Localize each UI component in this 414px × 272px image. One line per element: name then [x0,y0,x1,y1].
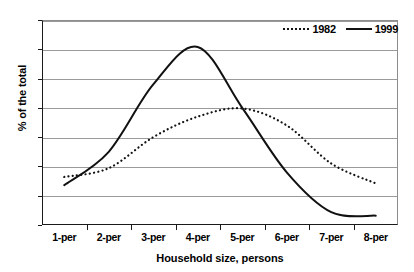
x-tick-label-5-per: 5-per [220,231,264,243]
series-line-1999 [64,47,376,217]
x-tick-label-7-per: 7-per [309,231,353,243]
x-tick-mark-4 [220,225,221,230]
x-tick-label-1-per: 1-per [42,231,86,243]
legend-item-1999[interactable]: 1999 [346,23,398,35]
x-axis-title: Household size, persons [42,252,398,264]
chart-legend: 19821999 [258,19,398,39]
series-line-1982 [64,108,376,183]
x-tick-mark-3 [176,225,177,230]
y-tick-mark-0 [38,225,42,226]
line-chart: % of the total 05101520253035 1-per2-per… [0,0,414,272]
x-tick-label-6-per: 6-per [265,231,309,243]
y-axis-title: % of the total [16,38,28,158]
x-tick-mark-1 [87,225,88,230]
x-tick-label-2-per: 2-per [87,231,131,243]
legend-swatch-dotted-icon [283,28,309,30]
x-tick-mark-6 [309,225,310,230]
series-lines [42,20,398,225]
x-tick-label-8-per: 8-per [354,231,398,243]
x-tick-label-3-per: 3-per [131,231,175,243]
x-tick-mark-5 [265,225,266,230]
legend-label-1999: 1999 [375,23,398,35]
x-tick-mark-7 [354,225,355,230]
x-tick-mark-2 [131,225,132,230]
legend-label-1982: 1982 [312,23,335,35]
legend-item-1982[interactable]: 1982 [283,23,335,35]
legend-swatch-solid-icon [346,28,372,30]
x-tick-label-4-per: 4-per [176,231,220,243]
